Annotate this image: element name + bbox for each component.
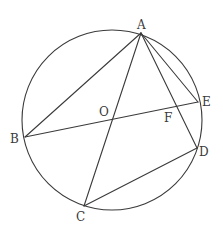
- geometry-figure: A B C D E O F: [0, 0, 223, 226]
- segment-cd: [84, 148, 197, 206]
- label-e: E: [202, 95, 211, 109]
- label-b: B: [10, 132, 19, 146]
- label-f: F: [164, 111, 172, 125]
- label-o: O: [99, 105, 109, 119]
- label-c: C: [76, 210, 85, 224]
- label-d: D: [199, 145, 209, 159]
- label-a: A: [136, 18, 146, 32]
